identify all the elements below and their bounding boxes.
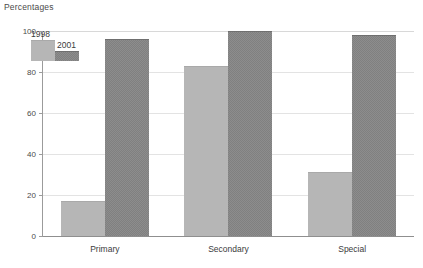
y-tick-mark-80 <box>39 72 43 73</box>
x-tick-label-secondary: Secondary <box>208 244 249 254</box>
x-tick-label-special: Special <box>338 244 366 254</box>
y-tick-mark-40 <box>39 154 43 155</box>
y-tick-mark-0 <box>39 236 43 237</box>
bar-special-2001[interactable] <box>352 35 396 236</box>
x-tick-label-primary: Primary <box>90 244 119 254</box>
bar-chart: Percentages 1998 2001 020406080100Primar… <box>0 0 423 268</box>
bar-secondary-1998[interactable] <box>184 66 228 236</box>
y-tick-mark-60 <box>39 113 43 114</box>
y-tick-mark-20 <box>39 195 43 196</box>
chart-legend: 1998 2001 <box>30 29 92 62</box>
legend-label-2001: 2001 <box>57 40 76 50</box>
bar-primary-1998[interactable] <box>61 201 105 236</box>
y-tick-label-40: 40 <box>27 150 36 159</box>
legend-swatch-1998 <box>31 40 55 61</box>
plot-area <box>43 31 414 236</box>
chart-title: Percentages <box>4 2 54 12</box>
bar-secondary-2001[interactable] <box>228 31 272 236</box>
y-tick-label-80: 80 <box>27 68 36 77</box>
bar-primary-2001[interactable] <box>105 39 149 236</box>
bar-group-secondary <box>167 31 291 236</box>
y-tick-label-20: 20 <box>27 191 36 200</box>
legend-swatch-2001 <box>55 51 79 61</box>
y-tick-label-60: 60 <box>27 109 36 118</box>
x-axis-line <box>42 236 414 237</box>
bar-group-special <box>290 31 414 236</box>
y-tick-label-0: 0 <box>32 232 36 241</box>
bar-special-1998[interactable] <box>308 172 352 236</box>
y-tick-label-100: 100 <box>23 27 36 36</box>
y-tick-mark-100 <box>39 31 43 32</box>
